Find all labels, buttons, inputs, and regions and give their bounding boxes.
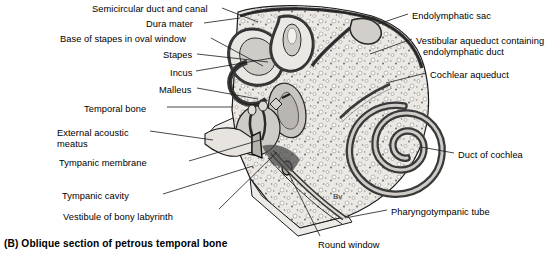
label-vestibular-aqueduct-line-2: endolymphatic duct (423, 47, 504, 58)
label-dura-mater: Dura mater (146, 19, 193, 30)
label-vestibule-of-bony-labyrinth: Vestibule of bony labyrinth (63, 212, 173, 223)
label-tympanic-membrane: Tympanic membrane (59, 158, 147, 169)
label-cochlear-aqueduct: Cochlear aqueduct (430, 70, 509, 81)
label-incus: Incus (170, 68, 192, 79)
label-semicircular-duct-and-canal: Semicircular duct and canal (92, 4, 208, 15)
label-temporal-bone: Temporal bone (84, 104, 146, 115)
label-vestibular-aqueduct-line-1: Vestibular aqueduct containing (416, 36, 544, 47)
annotation-bv: Bv (333, 192, 342, 201)
label-tympanic-cavity: Tympanic cavity (62, 191, 129, 202)
label-pharyngotympanic-tube: Pharyngotympanic tube (391, 207, 490, 218)
label-stapes: Stapes (163, 50, 192, 61)
label-external-acoustic-meatus-line-1: External acoustic (57, 128, 129, 139)
label-duct-of-cochlea: Duct of cochlea (458, 150, 523, 161)
label-malleus: Malleus (159, 85, 191, 96)
anatomy-figure-panel-b: Semicircular duct and canal Dura mater B… (0, 0, 555, 259)
label-round-window: Round window (318, 240, 380, 251)
label-endolymphatic-sac: Endolymphatic sac (412, 11, 491, 22)
tympanic-membrane-structure (252, 132, 262, 158)
figure-caption: (B) Oblique section of petrous temporal … (4, 238, 227, 249)
label-base-of-stapes-in-oval-window: Base of stapes in oval window (60, 34, 186, 45)
label-external-acoustic-meatus-line-2: meatus (57, 139, 88, 150)
